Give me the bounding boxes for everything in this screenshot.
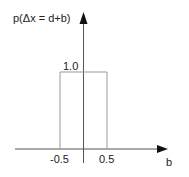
x-tick-left: -0.5	[50, 153, 69, 165]
x-axis-label: b	[166, 156, 172, 168]
y-axis-arrow-icon	[80, 12, 88, 24]
rectangular-distribution-chart: p(Δx = d+b) 1.0 -0.5 0.5 b	[0, 0, 189, 177]
x-axis-arrow-icon	[157, 145, 168, 153]
y-axis-label: p(Δx = d+b)	[13, 12, 71, 24]
height-tick-label: 1.0	[63, 60, 78, 72]
x-tick-right: 0.5	[99, 153, 114, 165]
